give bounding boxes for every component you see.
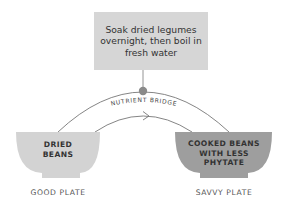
nutrient-bridge-label: NUTRIENT BRIDGE — [110, 96, 178, 107]
bowl-label-line: DRIED — [28, 140, 88, 150]
inner-arc — [95, 116, 192, 132]
bowl-label-line: WITH LESS — [180, 149, 268, 159]
savvy-plate-label: SAVVY PLATE — [176, 188, 272, 197]
bridge-node-dot — [139, 87, 147, 95]
bowl-label-line: BEANS — [28, 150, 88, 160]
bowl-label-line: COOKED BEANS — [180, 139, 268, 149]
bridge-diagram: NUTRIENT BRIDGE — [0, 0, 286, 208]
bowl-label-line: PHYTATE — [180, 158, 268, 168]
savvy-plate-bowl-label: COOKED BEANS WITH LESS PHYTATE — [180, 139, 268, 168]
good-plate-label: GOOD PLATE — [10, 188, 106, 197]
good-plate-bowl-label: DRIED BEANS — [28, 140, 88, 159]
